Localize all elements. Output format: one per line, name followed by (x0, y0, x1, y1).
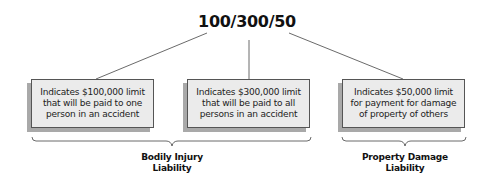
label-line: Bodily Injury (122, 152, 222, 163)
box-property-damage-limit: Indicates $50,000 limit for payment for … (342, 79, 465, 128)
box-text-line: that will be paid to all (196, 98, 300, 109)
label-bodily-injury-liability: Bodily Injury Liability (122, 152, 222, 174)
brace-property-damage (342, 137, 466, 146)
box-text-line: that will be paid to one (40, 98, 144, 109)
brace-bodily-injury (32, 137, 311, 146)
label-line: Property Damage (355, 152, 455, 163)
box-text-line: persons in an accident (196, 109, 300, 120)
connector-left (96, 33, 207, 79)
label-property-damage-liability: Property Damage Liability (355, 152, 455, 174)
box-text-line: Indicates $300,000 limit (196, 87, 300, 98)
box-per-accident-limit: Indicates $300,000 limit that will be pa… (187, 79, 310, 128)
box-per-person-limit: Indicates $100,000 limit that will be pa… (31, 79, 154, 128)
connector-right (289, 33, 403, 79)
box-text-line: Indicates $50,000 limit (351, 87, 457, 98)
box-text-line: for payment for damage (351, 98, 457, 109)
label-line: Liability (355, 163, 455, 174)
box-text-line: of property of others (351, 109, 457, 120)
box-text-line: Indicates $100,000 limit (40, 87, 144, 98)
box-text-line: person in an accident (40, 109, 144, 120)
label-line: Liability (122, 163, 222, 174)
